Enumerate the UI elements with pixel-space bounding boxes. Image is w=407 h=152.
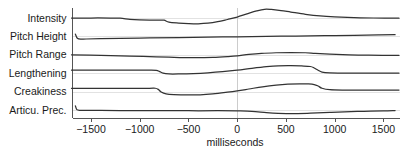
- speech-prosody-multipanel-chart: IntensityPitch HeightPitch RangeLengthen…: [0, 0, 407, 152]
- series-curve-creakiness: [72, 84, 400, 95]
- row-label-creakiness: Creakiness: [14, 85, 67, 97]
- x-tick-label: −1500: [76, 123, 106, 135]
- series-curve-lengthening: [72, 66, 400, 74]
- row-labels-group: IntensityPitch HeightPitch RangeLengthen…: [9, 12, 68, 116]
- axis-group: [73, 8, 401, 119]
- chart-canvas: IntensityPitch HeightPitch RangeLengthen…: [0, 0, 407, 152]
- x-tick-label: −500: [177, 123, 201, 135]
- x-tick-label: 500: [277, 123, 295, 135]
- row-label-intensity: Intensity: [27, 12, 67, 24]
- row-label-articu-prec: Articu. Prec.: [9, 104, 66, 116]
- row-label-pitch-height: Pitch Height: [10, 30, 67, 42]
- x-tick-label: 1000: [323, 123, 347, 135]
- x-tick-labels-group: −1500−1000−500050010001500: [76, 123, 395, 135]
- row-label-pitch-range: Pitch Range: [9, 48, 66, 60]
- row-gridlines-group: [72, 19, 401, 111]
- x-tick-label: 1500: [372, 123, 396, 135]
- row-label-lengthening: Lengthening: [9, 67, 67, 79]
- series-curve-intensity: [72, 9, 400, 24]
- x-axis-title: milliseconds: [206, 136, 263, 148]
- x-tick-label: −1000: [125, 123, 155, 135]
- x-tick-label: 0: [234, 123, 240, 135]
- series-curves-group: [72, 9, 400, 113]
- series-curve-articu-prec: [75, 106, 395, 114]
- x-axis-ticks-group: [92, 119, 384, 123]
